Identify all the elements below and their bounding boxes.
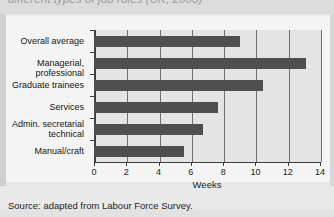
- figure-title-text: different types of job roles (UK, 2003): [8, 0, 202, 5]
- y-category-label: Manual/craft: [34, 146, 84, 156]
- x-tick-label: 2: [124, 167, 129, 177]
- x-tick-label: 0: [91, 167, 96, 177]
- bar-row: [95, 118, 321, 140]
- x-tick-mark: [255, 162, 256, 166]
- bar: [95, 146, 184, 157]
- y-category-label: Graduate trainees: [12, 80, 84, 90]
- x-tick-label: 8: [221, 167, 226, 177]
- bar: [95, 36, 240, 47]
- x-tick-mark: [159, 162, 160, 166]
- x-tick-label: 12: [283, 167, 293, 177]
- bar-row: [95, 140, 321, 162]
- y-tick-mark: [90, 74, 94, 75]
- bar-row: [95, 74, 321, 96]
- bar-row: [95, 96, 321, 118]
- x-tick-mark: [94, 162, 95, 166]
- x-tick-label: 4: [156, 167, 161, 177]
- bar: [95, 124, 203, 135]
- y-tick-mark: [90, 30, 94, 31]
- y-tick-mark: [90, 118, 94, 119]
- x-axis-label: Weeks: [94, 179, 320, 190]
- x-tick-label: 10: [250, 167, 260, 177]
- bar-series: [95, 30, 321, 162]
- bar: [95, 80, 263, 91]
- page-gutter-right: [330, 14, 334, 186]
- bar-row: [95, 30, 321, 52]
- y-tick-mark: [90, 52, 94, 53]
- x-tick-mark: [223, 162, 224, 166]
- bar: [95, 102, 218, 113]
- x-tick-label: 14: [315, 167, 325, 177]
- y-category-label: Services: [49, 102, 84, 112]
- figure-title-clipped: different types of job roles (UK, 2003): [0, 0, 334, 14]
- y-category-label: Overall average: [20, 36, 84, 46]
- y-tick-mark: [90, 140, 94, 141]
- y-category-label: Managerial, professional: [6, 58, 84, 78]
- y-category-label: Admin. secretarial technical: [12, 119, 84, 139]
- plot-area: [94, 30, 321, 162]
- figure-container: different types of job roles (UK, 2003) …: [0, 0, 334, 217]
- bar: [95, 58, 306, 69]
- y-tick-mark: [90, 96, 94, 97]
- x-tick-mark: [288, 162, 289, 166]
- gridline-14: [321, 30, 322, 162]
- x-tick-mark: [320, 162, 321, 166]
- x-tick-label: 6: [188, 167, 193, 177]
- x-tick-mark: [191, 162, 192, 166]
- chart-panel: 02468101214 Overall averageManagerial, p…: [6, 16, 330, 182]
- bar-row: [95, 52, 321, 74]
- x-tick-mark: [126, 162, 127, 166]
- source-note: Source: adapted from Labour Force Survey…: [8, 200, 193, 211]
